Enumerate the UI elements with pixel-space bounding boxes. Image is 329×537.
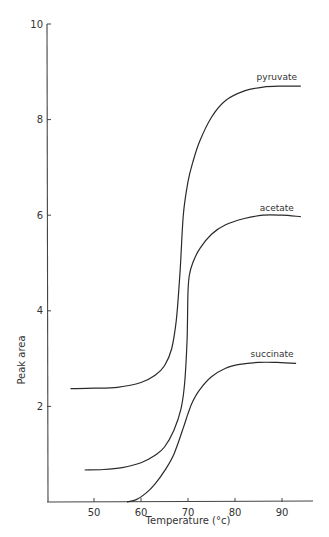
series-succinate xyxy=(127,362,296,502)
y-axis xyxy=(47,24,48,502)
curves xyxy=(71,86,301,502)
series-pyruvate xyxy=(71,86,301,389)
chart: 2468105060708090 pyruvateacetatesuccinat… xyxy=(0,0,329,537)
series-label-succinate: succinate xyxy=(251,349,295,359)
x-axis xyxy=(47,501,313,502)
series-label-pyruvate: pyruvate xyxy=(257,72,298,82)
y-axis-label: Peak area xyxy=(16,335,27,384)
x-axis-label: Temperature (°c) xyxy=(145,515,231,526)
y-tick-label: 2 xyxy=(37,401,43,412)
series-label-acetate: acetate xyxy=(260,203,295,213)
y-tick-label: 10 xyxy=(30,19,43,30)
x-tick-label: 90 xyxy=(276,507,289,518)
y-tick-label: 6 xyxy=(37,210,43,221)
x-tick-label: 50 xyxy=(88,507,101,518)
x-tick-label: 80 xyxy=(229,507,242,518)
y-tick-label: 8 xyxy=(37,114,43,125)
series-acetate xyxy=(85,215,301,470)
y-tick-label: 4 xyxy=(37,305,43,316)
axes: 2468105060708090 xyxy=(30,19,313,519)
